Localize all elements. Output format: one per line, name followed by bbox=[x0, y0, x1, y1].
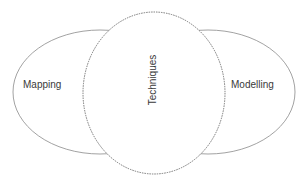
mapping-label: Mapping bbox=[23, 79, 61, 90]
venn-diagram: Mapping Techniques Modelling bbox=[0, 0, 308, 187]
modelling-label: Modelling bbox=[231, 79, 274, 90]
techniques-label: Techniques bbox=[147, 55, 158, 106]
